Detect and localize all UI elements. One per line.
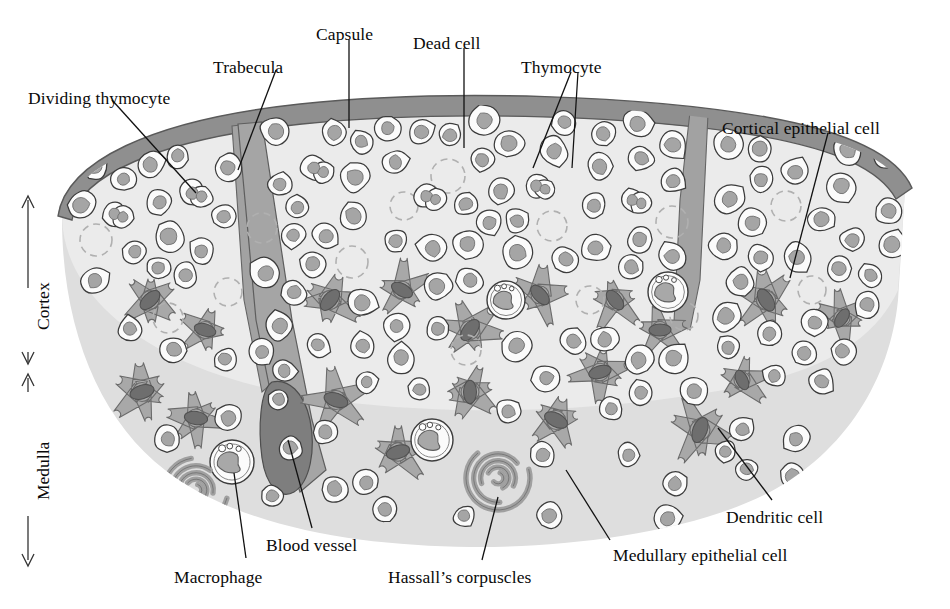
label-blood-vessel: Blood vessel	[266, 535, 357, 556]
macrophage	[411, 419, 453, 461]
thymocyte	[190, 238, 213, 264]
thymocyte	[718, 336, 740, 359]
thymocyte	[729, 418, 753, 441]
label-dendritic-cell: Dendritic cell	[726, 507, 823, 528]
thymocyte	[374, 117, 401, 141]
thymocyte	[591, 327, 620, 350]
thymocyte	[322, 477, 348, 502]
thymocyte	[660, 131, 686, 159]
thymocyte	[619, 255, 643, 279]
thymocyte	[215, 405, 241, 431]
thymocyte	[828, 256, 852, 282]
thymocyte	[385, 230, 406, 252]
thymocyte	[439, 123, 460, 145]
thymocyte	[600, 397, 622, 420]
thymocyte	[147, 258, 171, 279]
thymocyte	[427, 317, 448, 340]
label-dead-cell: Dead cell	[413, 33, 480, 54]
thymocyte	[551, 111, 575, 136]
thymocyte	[629, 380, 652, 406]
thymus-diagram: Dividing thymocyte Trabecula Capsule Dea…	[0, 0, 950, 609]
thymocyte	[160, 338, 187, 363]
thymocyte	[268, 390, 288, 410]
label-macrophage: Macrophage	[174, 567, 262, 588]
thymocyte	[212, 205, 236, 228]
thymocyte	[249, 338, 273, 365]
thymocyte	[353, 469, 379, 494]
thymocyte	[531, 441, 554, 467]
thymocyte	[506, 209, 528, 233]
thymocyte	[174, 262, 196, 289]
thymocyte	[855, 291, 879, 318]
thymocyte	[503, 236, 533, 269]
label-hassalls-corpuscles: Hassall’s corpuscles	[388, 567, 531, 588]
thymocyte	[340, 202, 366, 230]
thymocyte	[738, 208, 766, 236]
thymocyte	[111, 168, 137, 191]
thymocyte	[373, 497, 397, 522]
thymocyte	[313, 420, 337, 443]
thymocyte	[758, 321, 782, 346]
region-axis-arrows	[22, 196, 34, 566]
thymocyte	[792, 341, 816, 365]
label-capsule: Capsule	[316, 24, 373, 45]
macrophage	[487, 281, 525, 319]
thymocyte	[827, 173, 856, 202]
thymocyte	[876, 198, 902, 224]
thymocyte	[582, 193, 604, 219]
thymocyte	[155, 425, 180, 453]
macrophage	[210, 440, 254, 484]
thymocyte	[748, 136, 771, 162]
thymocyte	[408, 378, 430, 400]
label-cortical-epithelial-cell: Cortical epithelial cell	[722, 118, 880, 139]
label-dividing-thymocyte: Dividing thymocyte	[28, 88, 170, 109]
label-trabecula: Trabecula	[213, 57, 283, 78]
axis-label-cortex: Cortex	[33, 282, 54, 330]
thymocyte	[497, 400, 521, 423]
label-thymocyte: Thymocyte	[521, 57, 602, 78]
label-medullary-epithelial-cell: Medullary epithelial cell	[613, 545, 788, 566]
axis-label-medulla: Medulla	[33, 442, 54, 500]
thymocyte	[808, 208, 835, 231]
thymocyte	[455, 192, 478, 214]
macrophage	[648, 272, 688, 312]
